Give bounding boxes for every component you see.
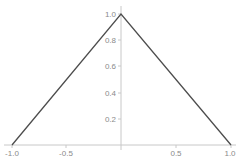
- y-tick-label: 1.0: [105, 10, 117, 19]
- x-tick-label: -0.5: [59, 149, 73, 158]
- x-axis: -1.0 -0.5 0.5 1.0: [4, 145, 236, 158]
- y-tick-label: 0.6: [105, 62, 117, 71]
- x-tick-label: -1.0: [5, 149, 19, 158]
- y-tick-label: 0.8: [105, 36, 117, 45]
- y-tick-label: 0.4: [105, 89, 117, 98]
- y-tick-label: 0.2: [105, 115, 117, 124]
- x-tick-label: 1.0: [224, 149, 236, 158]
- plot-area: -1.0 -0.5 0.5 1.0 0.2 0.4 0.6 0.8 1.0: [0, 0, 239, 162]
- x-tick-label: 0.5: [170, 149, 182, 158]
- y-axis: 0.2 0.4 0.6 0.8 1.0: [105, 6, 121, 150]
